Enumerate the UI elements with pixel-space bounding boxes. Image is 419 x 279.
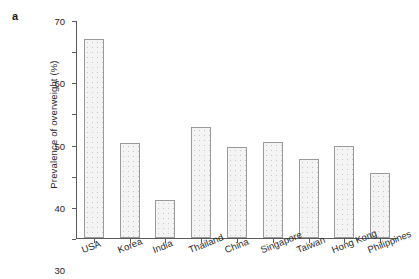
panel-label: a xyxy=(12,10,18,22)
bar xyxy=(155,200,175,238)
bar xyxy=(191,127,211,238)
y-tick-label: 50 xyxy=(54,140,65,151)
y-tick-label: 30 xyxy=(54,265,65,276)
bar xyxy=(299,159,319,238)
y-tick-mark: 10 xyxy=(72,208,76,209)
bar xyxy=(84,39,104,238)
y-tick-mark: 20 xyxy=(72,177,76,178)
y-tick-mark: 50 xyxy=(72,83,76,84)
bar xyxy=(227,147,247,238)
bar xyxy=(120,143,140,238)
bar xyxy=(334,146,354,238)
y-tick-label: 40 xyxy=(54,202,65,213)
x-tick-label: USA xyxy=(80,238,102,256)
y-tick-mark: 60 xyxy=(72,52,76,53)
bar xyxy=(263,142,283,238)
y-tick-label: 70 xyxy=(54,16,65,27)
y-axis-line xyxy=(76,21,77,239)
y-tick-mark: 40 xyxy=(72,114,76,115)
y-tick-mark: 70 xyxy=(72,21,76,22)
figure-panel-a: a Prevalence of overweight (%) 010203040… xyxy=(0,0,419,279)
y-tick-mark: 0 xyxy=(72,239,76,240)
plot-area: 010203040506070 xyxy=(76,21,398,239)
x-tick-label: India xyxy=(151,237,174,255)
y-tick-label: 60 xyxy=(54,78,65,89)
y-tick-mark: 30 xyxy=(72,146,76,147)
